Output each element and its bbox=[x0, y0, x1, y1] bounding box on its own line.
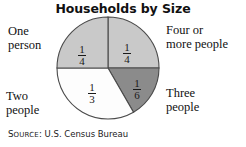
pie-label-one-person-line2: person bbox=[8, 38, 41, 52]
pie-label-two-people: Two people bbox=[6, 89, 39, 117]
pie-label-two-people-line1: Two bbox=[6, 89, 39, 103]
pie-label-three-people-line1: Three bbox=[166, 86, 199, 100]
pie-chart-svg bbox=[56, 16, 160, 120]
fraction-denominator: 4 bbox=[123, 53, 131, 65]
pie-label-four-or-more-line1: Four or bbox=[166, 23, 228, 37]
fraction-numerator: 1 bbox=[88, 82, 96, 93]
fraction-numerator: 1 bbox=[133, 78, 141, 89]
source-separator: : bbox=[39, 129, 42, 139]
fraction-denominator: 6 bbox=[133, 89, 141, 101]
pie-label-four-or-more-line2: more people bbox=[166, 37, 228, 51]
pie-label-three-people-line2: people bbox=[166, 100, 199, 114]
fraction-denominator: 4 bbox=[78, 55, 86, 67]
pie-label-one-person-line1: One bbox=[8, 24, 41, 38]
pie-label-one-person: One person bbox=[8, 24, 41, 52]
slice-value-four-or-more-people: 1 4 bbox=[116, 42, 138, 65]
slice-value-one-person: 1 4 bbox=[71, 44, 93, 67]
households-by-size-figure: Households by Size 1 4 1 4 bbox=[0, 0, 246, 147]
slice-value-three-people: 1 6 bbox=[126, 78, 148, 101]
pie-label-four-or-more-people: Four or more people bbox=[166, 23, 228, 51]
pie-chart: 1 4 1 4 1 3 1 6 bbox=[56, 16, 160, 120]
page-title: Households by Size bbox=[0, 1, 246, 16]
pie-label-three-people: Three people bbox=[166, 86, 199, 114]
slice-value-two-people: 1 3 bbox=[81, 82, 103, 105]
source-text: U.S. Census Bureau bbox=[45, 129, 129, 139]
source-prefix-rest: OURCE bbox=[14, 131, 39, 139]
fraction-numerator: 1 bbox=[123, 42, 131, 53]
pie-label-two-people-line2: people bbox=[6, 103, 39, 117]
source-attribution: SOURCE: U.S. Census Bureau bbox=[8, 129, 128, 139]
fraction-denominator: 3 bbox=[88, 93, 96, 105]
fraction-numerator: 1 bbox=[78, 44, 86, 55]
